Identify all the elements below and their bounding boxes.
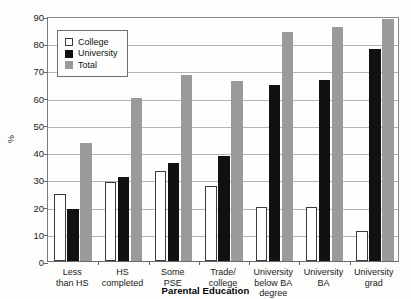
legend-item-university: University (65, 48, 118, 59)
x-axis-title: Parental Education (0, 285, 411, 296)
legend-label-total: Total (78, 61, 97, 70)
y-axis-tick-label: 30 (33, 177, 44, 187)
bar-college (155, 171, 167, 261)
y-axis-tick-label: 60 (33, 95, 44, 105)
bar-college (256, 207, 268, 261)
bar-university (67, 209, 79, 261)
legend-item-college: College (65, 37, 118, 48)
y-axis-tick-label: 80 (33, 40, 44, 50)
y-axis-tick-label: 90 (33, 13, 44, 23)
x-axis-tick-mark (249, 261, 250, 265)
legend-item-total: Total (65, 60, 118, 71)
x-axis-tick-mark (299, 261, 300, 265)
cropped-title-remnant (52, 0, 312, 7)
bar-university (269, 85, 281, 261)
bar-group (155, 18, 193, 261)
bar-university (168, 163, 180, 261)
bar-group (356, 18, 394, 261)
y-axis-tick-label: 20 (33, 204, 44, 214)
bar-total (181, 75, 193, 261)
legend-swatch-college-icon (65, 38, 73, 46)
legend: College University Total (57, 30, 128, 77)
bar-college (105, 182, 117, 261)
bar-group (256, 18, 294, 261)
y-axis-tick-mark (44, 263, 48, 264)
bar-college (54, 194, 66, 261)
bar-total (332, 27, 344, 261)
bar-group (306, 18, 344, 261)
legend-swatch-total-icon (65, 61, 73, 69)
x-axis-tick-mark (149, 261, 150, 265)
y-axis-tick-label: 70 (33, 68, 44, 78)
bar-college (205, 186, 217, 261)
bar-college (356, 231, 368, 261)
y-axis-tick-label: 50 (33, 122, 44, 132)
x-axis-tick-mark (98, 261, 99, 265)
bar-total (382, 19, 394, 261)
bar-total (282, 32, 294, 261)
x-axis-tick-mark (350, 261, 351, 265)
x-axis-tick-mark (199, 261, 200, 265)
bar-university (218, 156, 230, 261)
y-axis-tick-label: 40 (33, 149, 44, 159)
bar-college (306, 207, 318, 261)
y-axis-tick-label: 10 (33, 231, 44, 241)
legend-label-university: University (78, 49, 118, 58)
bar-total (231, 81, 243, 261)
legend-label-college: College (78, 38, 109, 47)
bar-group (205, 18, 243, 261)
y-axis-label: % (6, 135, 16, 143)
bar-university (118, 177, 130, 261)
legend-swatch-university-icon (65, 50, 73, 58)
bar-total (131, 98, 143, 261)
bar-university (319, 80, 331, 261)
bar-total (80, 143, 92, 261)
bar-university (369, 49, 381, 261)
